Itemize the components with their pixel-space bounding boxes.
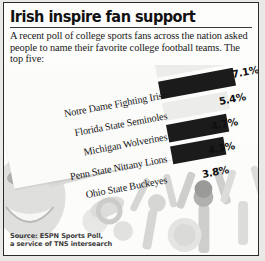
page-title: Irish inspire fan support xyxy=(10,8,223,25)
subtitle: A recent poll of college sports fans acr… xyxy=(10,30,252,64)
source-line-2: a service of TNS intersearch xyxy=(10,241,112,249)
divider xyxy=(10,27,252,28)
header: Irish inspire fan support A recent poll … xyxy=(4,3,258,65)
infographic-panel: Notre Dame Fighting Irish Florida State … xyxy=(3,2,259,256)
source-attribution: Source: ESPN Sports Poll, a service of T… xyxy=(10,233,112,249)
